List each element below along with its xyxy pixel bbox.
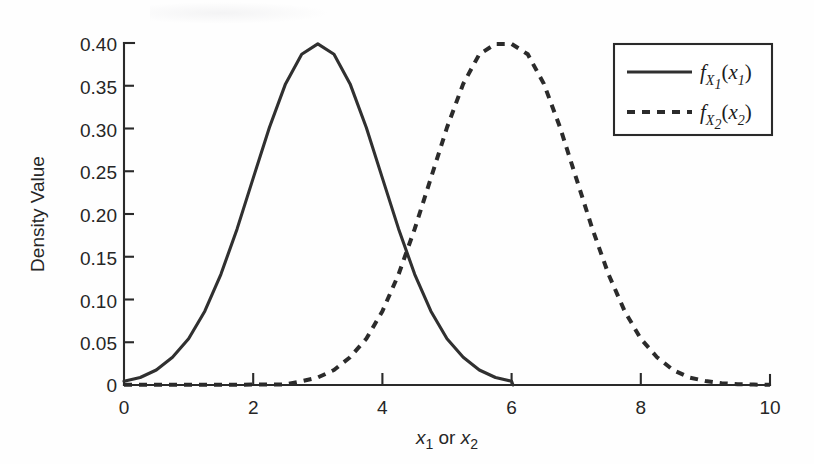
- density-plot: 0.40 0.35 0.30 0.25 0.20 0.15 0.10 0.05 …: [0, 0, 814, 464]
- legend-arg-idx-2: 2: [738, 113, 745, 128]
- x-axis-tick-labels: 0 2 4 6 8 10: [119, 397, 781, 418]
- legend-open-paren-1: (: [721, 60, 728, 84]
- y-tick-label-1: 0.35: [80, 77, 117, 98]
- y-tick-label-2: 0.30: [80, 120, 117, 141]
- legend-close-paren-1: ): [745, 60, 752, 84]
- x-axis-title: x1 or x2: [415, 427, 478, 452]
- legend[interactable]: fX1(x1) fX2(x2): [614, 44, 772, 135]
- legend-subfn-idx-2: 2: [714, 117, 721, 132]
- y-tick-label-0: 0.40: [80, 34, 117, 55]
- x-axis-title-x1-sub: 1: [425, 436, 433, 452]
- y-axis-tick-labels: 0.40 0.35 0.30 0.25 0.20 0.15 0.10 0.05 …: [80, 34, 117, 396]
- y-tick-label-7: 0.05: [80, 333, 117, 354]
- legend-close-paren-2: ): [745, 100, 752, 124]
- x-tick-label-5: 10: [759, 397, 780, 418]
- x-tick-label-3: 6: [506, 397, 517, 418]
- x-axis-title-connector: or: [433, 427, 460, 448]
- y-axis-title: Density Value: [27, 156, 48, 272]
- chart-page: 0.40 0.35 0.30 0.25 0.20 0.15 0.10 0.05 …: [0, 0, 814, 464]
- x-axis-title-x2-sub: 2: [470, 436, 478, 452]
- legend-subfn-2: X: [705, 113, 715, 128]
- legend-subfn-1: X: [705, 73, 715, 88]
- x-tick-label-2: 4: [377, 397, 388, 418]
- y-tick-label-4: 0.20: [80, 205, 117, 226]
- svg-text:x1 or x2: x1 or x2: [415, 427, 478, 452]
- y-tick-label-6: 0.10: [80, 291, 117, 312]
- x-tick-label-4: 8: [636, 397, 647, 418]
- y-axis-ticks: [124, 86, 134, 343]
- y-tick-label-8: 0: [106, 375, 117, 396]
- curve-f-x1: [124, 44, 513, 385]
- x-tick-label-0: 0: [119, 397, 130, 418]
- legend-subfn-idx-1: 1: [714, 77, 721, 92]
- legend-arg-idx-1: 1: [738, 73, 745, 88]
- legend-open-paren-2: (: [721, 100, 728, 124]
- y-tick-label-3: 0.25: [80, 162, 117, 183]
- x-tick-label-1: 2: [248, 397, 259, 418]
- y-tick-label-5: 0.15: [80, 248, 117, 269]
